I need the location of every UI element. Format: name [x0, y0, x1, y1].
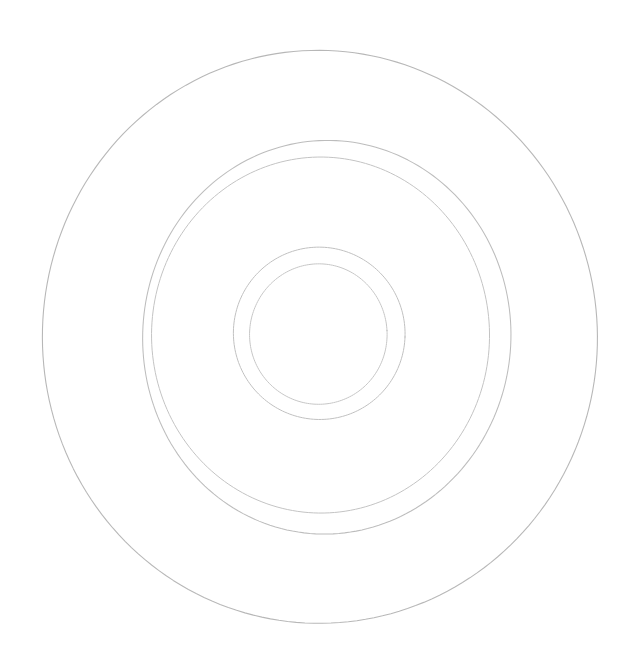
paper-background: [0, 0, 632, 664]
concentric-circles-figure: [0, 0, 632, 664]
drawing-canvas: [0, 0, 632, 664]
